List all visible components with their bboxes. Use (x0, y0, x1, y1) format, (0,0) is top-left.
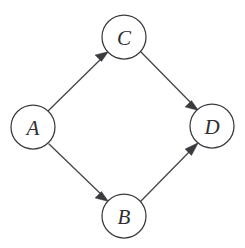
node-c-label: C (117, 26, 132, 50)
edge-a-to-b[interactable] (49, 144, 109, 202)
node-b-label: B (118, 205, 131, 229)
graph-diagram: A C D B (0, 0, 245, 248)
node-a[interactable]: A (11, 105, 55, 149)
node-layer: A C D B (11, 15, 234, 238)
graph-canvas: A C D B (0, 0, 245, 248)
edge-b-to-d-line (141, 147, 194, 201)
edge-a-to-b-arrowhead (95, 192, 109, 202)
node-d[interactable]: D (190, 104, 234, 148)
edge-a-to-c-arrowhead (95, 52, 109, 62)
node-c[interactable]: C (102, 15, 146, 59)
edge-a-to-c-line (48, 56, 104, 111)
edge-a-to-c[interactable] (48, 52, 109, 112)
edge-layer (48, 52, 199, 202)
edge-c-to-d-arrowhead (185, 101, 199, 111)
node-b[interactable]: B (102, 194, 146, 238)
edge-c-to-d[interactable] (141, 52, 199, 111)
edge-c-to-d-line (141, 52, 194, 106)
edge-b-to-d[interactable] (141, 143, 199, 202)
node-a-label: A (25, 116, 40, 140)
edge-a-to-b-line (49, 144, 104, 197)
node-d-label: D (203, 115, 219, 139)
